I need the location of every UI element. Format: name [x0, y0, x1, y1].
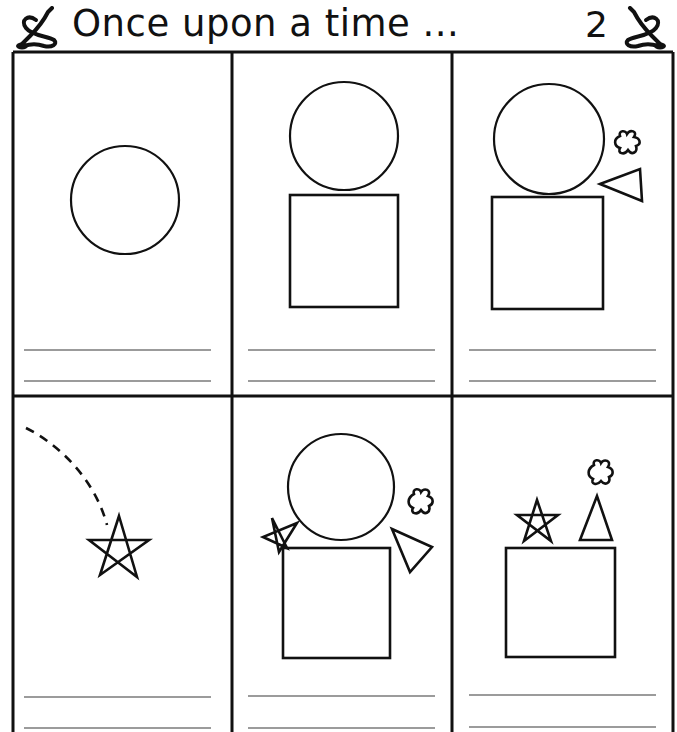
panel-1: [71, 146, 179, 254]
square-shape: [283, 548, 390, 658]
circle-shape: [288, 434, 394, 540]
triangle-shape: [392, 529, 432, 572]
panel-6: [506, 460, 615, 657]
square-shape: [492, 197, 603, 309]
panel-2: [290, 82, 398, 307]
splat-shape: [589, 460, 613, 484]
panel-3: [492, 84, 642, 309]
panel-5: [263, 434, 433, 658]
square-shape: [506, 548, 615, 657]
grid-lines: [13, 52, 673, 732]
square-shape: [290, 195, 398, 307]
splat-shape: [409, 489, 433, 513]
worksheet-grid: [0, 0, 677, 732]
star-shape: [517, 500, 558, 541]
dashed-arc: [26, 428, 107, 525]
triangle-shape: [600, 169, 642, 201]
triangle-shape: [580, 496, 612, 540]
star-shape: [89, 516, 149, 577]
circle-shape: [290, 82, 398, 190]
circle-shape: [494, 84, 604, 194]
circle-shape: [71, 146, 179, 254]
panel-4: [26, 428, 149, 577]
splat-shape: [615, 131, 640, 153]
